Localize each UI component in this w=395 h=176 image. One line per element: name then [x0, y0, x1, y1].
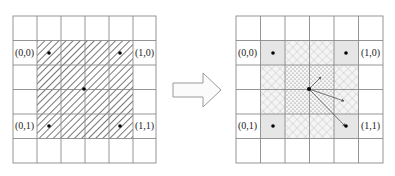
bilinear-interpolation-diagram: (0,0) (1,0) (0,1) (1,1) — [0, 0, 395, 176]
label-top-left: (0,0) — [238, 47, 257, 59]
point-00 — [47, 51, 51, 55]
point-10 — [118, 51, 122, 55]
label-bottom-left: (0,1) — [15, 120, 34, 132]
point-center — [307, 87, 311, 91]
label-bottom-left: (0,1) — [238, 120, 257, 132]
target-grid: (0,0) (1,0) (0,1) (1,1) — [236, 16, 383, 163]
label-top-right: (1,0) — [361, 47, 380, 59]
point-center — [82, 87, 86, 91]
point-11 — [344, 124, 348, 128]
label-top-right: (1,0) — [135, 47, 154, 59]
label-bottom-right: (1,1) — [361, 120, 380, 132]
label-bottom-right: (1,1) — [135, 120, 154, 132]
right-arrow-icon — [173, 73, 221, 107]
point-00 — [271, 51, 275, 55]
point-01 — [47, 124, 51, 128]
point-01 — [271, 124, 275, 128]
point-11 — [118, 124, 122, 128]
source-grid: (0,0) (1,0) (0,1) (1,1) — [13, 16, 156, 163]
point-10 — [344, 51, 348, 55]
label-top-left: (0,0) — [15, 47, 34, 59]
